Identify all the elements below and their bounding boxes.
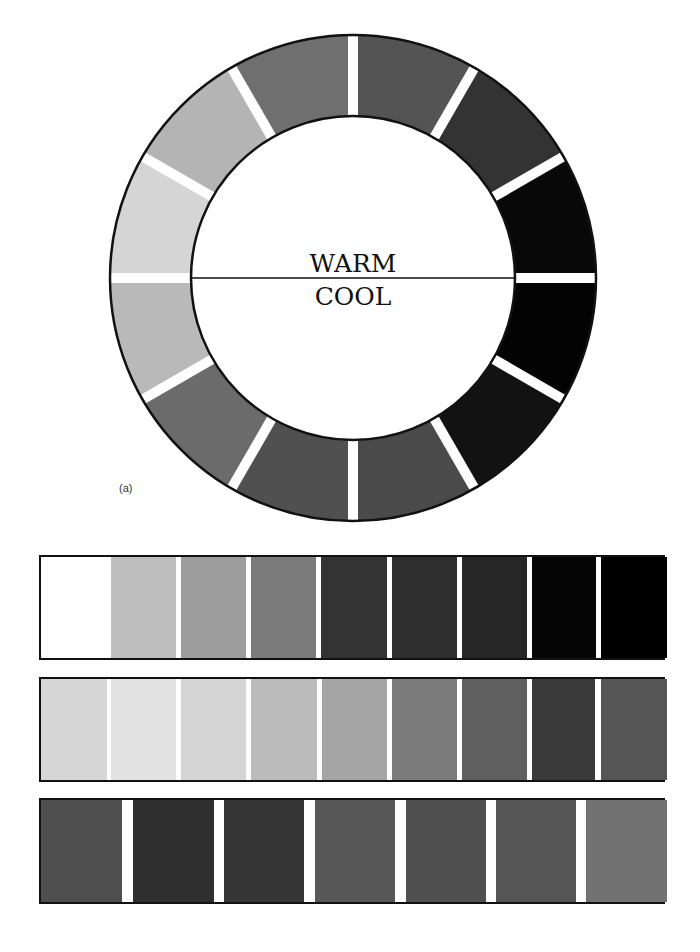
color-swatch [322, 679, 387, 780]
color-wheel: WARM COOL [0, 0, 700, 540]
color-swatch [532, 557, 596, 658]
color-swatch [462, 679, 527, 780]
color-swatch [601, 557, 667, 658]
color-swatch [392, 557, 457, 658]
value-bar-3 [39, 798, 665, 904]
color-swatch [111, 557, 176, 658]
color-swatch [133, 800, 214, 902]
color-swatch [462, 557, 527, 658]
color-swatch [321, 557, 387, 658]
color-swatch [181, 679, 246, 780]
value-bar-2 [39, 677, 665, 782]
color-swatch [111, 679, 176, 780]
color-swatch [586, 800, 667, 902]
cool-label: COOL [315, 282, 392, 311]
color-swatch [224, 800, 304, 902]
color-swatch [532, 679, 595, 780]
color-swatch [41, 679, 107, 780]
color-swatch [601, 679, 667, 780]
color-swatch [251, 679, 317, 780]
color-swatch [392, 679, 457, 780]
color-swatch [406, 800, 486, 902]
color-swatch [181, 557, 246, 658]
color-swatch [496, 800, 576, 902]
color-swatch [251, 557, 316, 658]
color-swatch [315, 800, 395, 902]
panel-label: (a) [119, 482, 132, 494]
color-swatch [41, 800, 122, 902]
value-bar-1 [39, 555, 665, 660]
color-swatch [41, 557, 111, 658]
warm-label: WARM [310, 249, 397, 278]
